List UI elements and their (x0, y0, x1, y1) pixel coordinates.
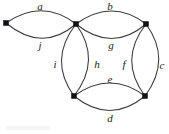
edge-f[interactable] (132, 24, 146, 96)
left-vertex[interactable] (3, 20, 8, 25)
edge-c[interactable] (145, 24, 159, 96)
edge-a[interactable] (6, 11, 76, 24)
edge-label-e: e (108, 74, 113, 85)
edge-i[interactable] (61, 24, 76, 96)
graph-canvas (0, 0, 169, 134)
edge-e[interactable] (74, 83, 145, 96)
edge-label-c: c (160, 60, 165, 71)
edge-g[interactable] (76, 24, 146, 39)
edge-b[interactable] (76, 11, 146, 24)
edge-label-a: a (37, 1, 43, 12)
top-right-vertex[interactable] (143, 21, 148, 26)
multigraph-figure: a j b g i h f c e d (0, 0, 169, 134)
edge-label-h: h (94, 59, 100, 70)
edge-layer (6, 11, 159, 111)
bottom-left-vertex[interactable] (71, 93, 76, 98)
edge-label-g: g (108, 40, 114, 51)
top-middle-vertex[interactable] (73, 21, 78, 26)
vertex-layer (3, 20, 148, 98)
edge-label-f: f (122, 59, 125, 70)
edge-j[interactable] (6, 23, 76, 38)
bottom-right-vertex[interactable] (142, 93, 147, 98)
scan-artifact (6, 126, 50, 130)
edge-label-d: d (107, 113, 113, 124)
edge-label-b: b (107, 1, 113, 12)
edge-h[interactable] (74, 24, 89, 96)
edge-label-j: j (38, 40, 41, 51)
edge-label-i: i (53, 59, 56, 70)
edge-d[interactable] (74, 96, 145, 111)
